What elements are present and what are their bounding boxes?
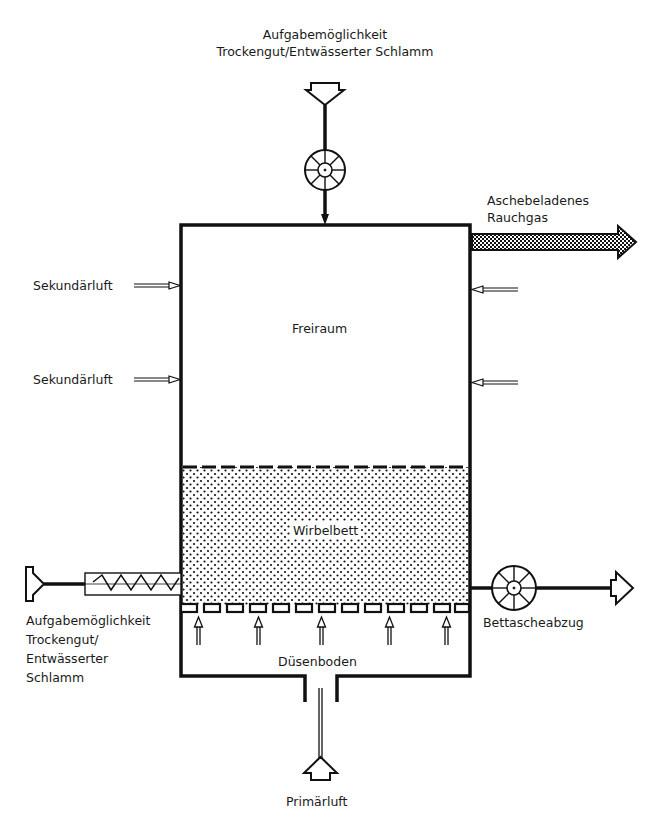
- side-feed-label: Aufgabemöglichkeit Trockengut/ Entwässer…: [26, 611, 150, 687]
- flue-gas-outlet: [472, 226, 636, 258]
- side-feed-inlet: [26, 567, 181, 601]
- side-feed-label-line3: Entwässerter: [26, 649, 150, 668]
- side-feed-label-line1: Aufgabemöglichkeit: [26, 611, 150, 630]
- bottom-rotary-valve-icon: [492, 566, 536, 610]
- top-feed-label: Aufgabemöglichkeit Trockengut/Entwässert…: [180, 26, 470, 60]
- side-feed-arrow-icon: [26, 567, 44, 601]
- reactor-vessel: [181, 225, 470, 702]
- flue-gas-label-line1: Aschebeladenes: [487, 192, 589, 209]
- bed-ash-removal-label: Bettascheabzug: [483, 614, 584, 631]
- nozzle-floor-label: Düsenboden: [278, 653, 357, 670]
- side-feed-label-line2: Trockengut/: [26, 630, 150, 649]
- flue-gas-label: Aschebeladenes Rauchgas: [487, 192, 589, 226]
- primary-air-arrow-icon: [304, 757, 337, 780]
- diagram-canvas: [0, 0, 662, 833]
- top-rotary-valve-icon: [305, 150, 345, 190]
- freeboard-label: Freiraum: [292, 320, 347, 337]
- secondary-air-label-upper: Sekundärluft: [33, 277, 113, 294]
- secondary-air-left-arrows: [134, 282, 180, 383]
- primary-air-label: Primärluft: [286, 793, 347, 810]
- secondary-air-right-arrows: [472, 286, 518, 386]
- fluidized-bed-label: Wirbelbett: [290, 522, 361, 539]
- ash-discharge-arrow-icon: [611, 572, 633, 604]
- flue-gas-arrow-icon: [472, 226, 636, 258]
- secondary-air-label-lower: Sekundärluft: [33, 371, 113, 388]
- primary-air-inlet: [304, 688, 337, 780]
- flue-gas-label-line2: Rauchgas: [487, 209, 589, 226]
- screw-conveyor-icon: [85, 573, 181, 595]
- top-feed-label-line1: Aufgabemöglichkeit: [180, 26, 470, 43]
- primary-air-distribution-arrows: [195, 617, 451, 645]
- side-feed-label-line4: Schlamm: [26, 668, 150, 687]
- top-feed-label-line2: Trockengut/Entwässerter Schlamm: [180, 43, 470, 60]
- top-feed-funnel-icon: [306, 83, 344, 105]
